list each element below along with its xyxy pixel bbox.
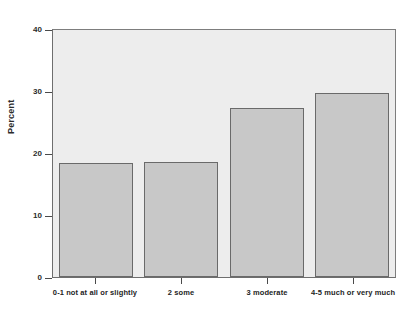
x-tick-label-1: 2 some bbox=[168, 288, 194, 297]
plot-area bbox=[52, 29, 396, 278]
y-axis-title: Percent bbox=[6, 54, 22, 134]
y-tick-20 bbox=[45, 154, 52, 155]
x-tick-label-2: 3 moderate bbox=[246, 288, 287, 297]
x-tick-1 bbox=[181, 278, 182, 284]
y-tick-10 bbox=[45, 216, 52, 217]
y-tick-label-10: 10 bbox=[22, 212, 42, 220]
x-tick-3 bbox=[353, 278, 354, 284]
y-tick-label-40: 40 bbox=[22, 26, 42, 34]
y-tick-label-0: 0 bbox=[22, 274, 42, 282]
y-tick-30 bbox=[45, 92, 52, 93]
bar-1 bbox=[144, 162, 218, 277]
bar-chart-figure: Percent 0 10 20 30 40 0-1 not at all or … bbox=[0, 0, 418, 317]
x-tick-2 bbox=[267, 278, 268, 284]
y-tick-40 bbox=[45, 30, 52, 31]
bar-3 bbox=[315, 93, 389, 277]
y-tick-label-30: 30 bbox=[22, 88, 42, 96]
bar-2 bbox=[230, 108, 304, 277]
y-tick-label-20: 20 bbox=[22, 150, 42, 158]
x-tick-label-0: 0-1 not at all or slightly bbox=[53, 288, 137, 297]
y-tick-0 bbox=[45, 278, 52, 279]
bar-series bbox=[53, 30, 395, 277]
x-tick-0 bbox=[95, 278, 96, 284]
x-tick-label-3: 4-5 much or very much bbox=[311, 288, 395, 297]
bar-0 bbox=[59, 163, 133, 277]
